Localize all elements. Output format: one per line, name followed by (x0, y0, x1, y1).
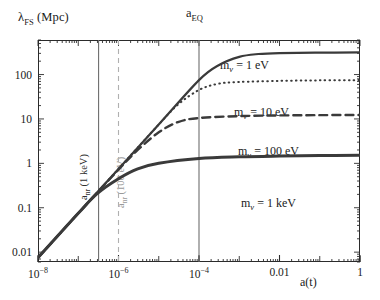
vline1-rest: (1 keV) (78, 154, 89, 189)
x-tick-label: 1 (357, 266, 363, 278)
curve2-m: m (234, 105, 243, 119)
curve-label-1ev: mν = 1 eV (220, 58, 269, 74)
x-tick-label: 10−6 (108, 266, 128, 280)
curve-label-10ev: mν = 10 eV (234, 105, 289, 121)
x-tick-label: 10−8 (28, 266, 48, 280)
y-tick-label: 1 (0, 157, 32, 169)
y-tick-label: 10 (0, 113, 32, 125)
curve3-m: m (238, 144, 247, 158)
a-eq-subscript: EQ (192, 13, 203, 23)
vline2-subscript: nr (120, 197, 129, 203)
curve3-eq: = 100 eV (251, 144, 299, 158)
vline1-subscript: nr (83, 189, 92, 195)
curve1-m: m (220, 58, 229, 72)
y-tick-label: 100 (0, 69, 32, 81)
vline-label-a-nr-1kev: anr (1 keV) (78, 154, 92, 200)
y-tick-label: 0.01 (0, 246, 32, 258)
curve4-m: m (241, 196, 250, 210)
plot-frame (38, 40, 360, 262)
y-tick-label: 0.1 (0, 202, 32, 214)
x-axis-title: a(t) (300, 275, 317, 290)
x-tick-label: 10−4 (189, 266, 209, 280)
vline2-symbol: a (115, 203, 126, 208)
curve4-eq: = 1 keV (254, 196, 296, 210)
vline-label-a-nr-100ev: anr (100 eV) (115, 157, 129, 208)
vline2-rest: (100 eV) (115, 157, 126, 197)
chart-root: λFS (Mpc) a(t) aEQ 1001010.10.01 10−810−… (0, 0, 380, 300)
a-eq-annotation: aEQ (186, 6, 203, 23)
y-axis-title-unit: (Mpc) (34, 10, 69, 24)
curve2-eq: = 10 eV (247, 105, 289, 119)
curve-label-1kev: mν = 1 keV (241, 196, 296, 212)
vline1-symbol: a (78, 195, 89, 200)
curve1-eq: = 1 eV (233, 58, 269, 72)
y-axis-title-subscript: FS (24, 17, 34, 27)
curve-label-100ev: mν = 100 eV (238, 144, 299, 160)
x-tick-label: 0.01 (269, 266, 289, 278)
y-axis-title: λFS (Mpc) (18, 10, 69, 27)
